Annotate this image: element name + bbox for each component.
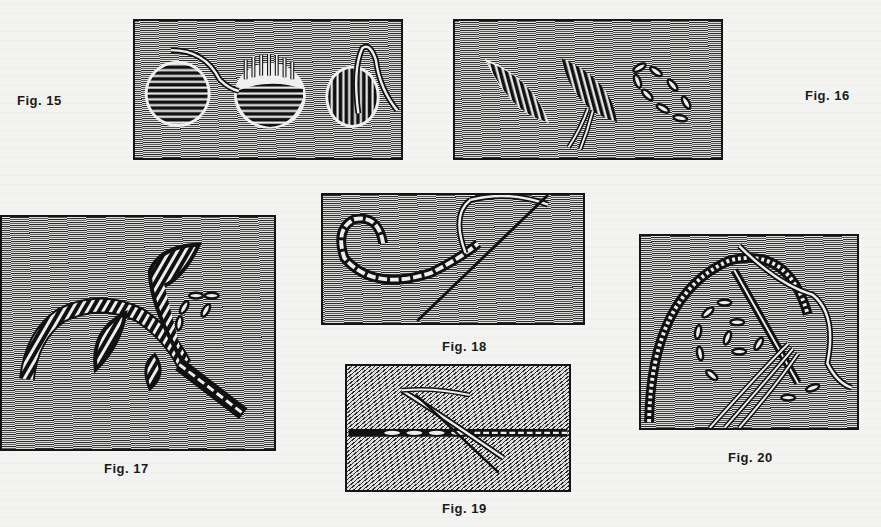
beaded-spiral-illustration bbox=[641, 236, 857, 428]
document-page: Fig. 15 bbox=[0, 0, 881, 527]
leaf-outline-stitches bbox=[632, 62, 692, 123]
dot-filled bbox=[145, 61, 211, 127]
dot-working bbox=[325, 47, 397, 128]
figure-19-illustration bbox=[345, 364, 571, 492]
figure-15-caption: Fig. 15 bbox=[17, 93, 62, 108]
leaf-in-progress bbox=[561, 58, 617, 149]
figure-20-caption: Fig. 20 bbox=[728, 450, 773, 465]
figure-20-illustration bbox=[639, 234, 859, 430]
figure-18-illustration bbox=[321, 193, 585, 325]
figure-16-caption: Fig. 16 bbox=[805, 88, 850, 103]
figure-16-illustration bbox=[453, 19, 723, 160]
figure-19-caption: Fig. 19 bbox=[442, 501, 487, 516]
figure-15-illustration bbox=[133, 19, 403, 160]
running-stitch-illustration bbox=[347, 366, 569, 490]
stem-stitch-illustration bbox=[323, 195, 583, 323]
floral-spray-illustration bbox=[2, 217, 274, 449]
leaf-filled bbox=[485, 59, 549, 123]
satin-leaf-illustration bbox=[455, 21, 721, 158]
figure-17-illustration bbox=[0, 215, 276, 451]
figure-18-caption: Fig. 18 bbox=[442, 339, 487, 354]
satin-dot-illustration bbox=[135, 21, 401, 158]
figure-17-caption: Fig. 17 bbox=[104, 461, 149, 476]
